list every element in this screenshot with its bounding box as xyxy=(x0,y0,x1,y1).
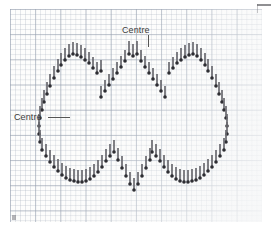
stitch-mark xyxy=(214,74,218,88)
stitch-mark xyxy=(159,80,163,93)
stitch-mark xyxy=(56,59,60,73)
stitch-mark xyxy=(158,149,162,163)
stitch-mark xyxy=(190,169,194,183)
stitch-mark xyxy=(48,74,52,88)
stitch-mark xyxy=(206,159,210,173)
stitch-mark xyxy=(115,62,119,75)
stitch-mark xyxy=(111,68,115,81)
stitch-mark xyxy=(210,66,214,80)
stitch-mark xyxy=(99,60,103,73)
stitch-mark xyxy=(166,160,170,174)
stitch-mark xyxy=(48,150,52,164)
stitch-mark xyxy=(87,52,91,65)
stitch-mark xyxy=(182,170,186,184)
stitch-mark xyxy=(163,86,167,99)
stitch-mark xyxy=(195,44,199,58)
stitch-mark xyxy=(92,164,96,178)
stitch-mark xyxy=(80,170,84,184)
stitch-mark xyxy=(116,148,120,162)
stitch-mark xyxy=(218,144,222,158)
stitch-mark xyxy=(59,53,63,67)
stitch-mark xyxy=(178,169,182,183)
stitch-mark xyxy=(52,155,56,169)
centre-top-leader-line xyxy=(148,35,149,47)
stitch-mark xyxy=(171,57,175,70)
stitch-mark xyxy=(128,172,132,186)
stitch-mark xyxy=(144,156,148,170)
stitch-mark xyxy=(217,82,221,96)
stitch-mark xyxy=(104,149,108,163)
stitch-mark xyxy=(76,170,80,184)
stitch-mark xyxy=(75,43,79,57)
stitch-mark xyxy=(179,48,183,62)
centre-top-label: Centre xyxy=(122,25,150,35)
stitch-mark xyxy=(127,41,131,56)
stitch-mark xyxy=(120,156,124,170)
stitch-mark xyxy=(68,168,72,182)
stitch-mark xyxy=(136,172,140,186)
stitch-mark xyxy=(83,48,87,62)
stitch-mark xyxy=(71,42,75,56)
stitch-mark xyxy=(198,166,202,180)
stitch-mark xyxy=(124,164,128,178)
stitch-mark xyxy=(45,82,49,96)
stitch-mark xyxy=(203,53,207,67)
stitch-mark xyxy=(112,140,116,154)
stitch-mark xyxy=(140,164,144,178)
stitch-mark xyxy=(194,168,198,182)
stitch-mark xyxy=(52,66,56,80)
stitch-mark xyxy=(167,62,171,75)
stitch-mark xyxy=(103,80,107,93)
stitch-mark xyxy=(95,62,99,75)
stitch-mark xyxy=(155,74,159,87)
stitch-mark xyxy=(67,44,71,58)
stitch-mark xyxy=(72,169,76,183)
scan-artifact-icon xyxy=(257,4,271,13)
stitch-mark xyxy=(44,144,48,158)
stitch-mark xyxy=(84,169,88,183)
stitch-mark xyxy=(108,144,112,158)
stitch-mark xyxy=(191,42,195,56)
stitch-mark xyxy=(174,167,178,181)
stitch-mark xyxy=(147,62,151,75)
stitch-mark xyxy=(175,52,179,65)
stitch-mark xyxy=(210,155,214,169)
chart-page: Centre Centre xyxy=(0,0,273,232)
stitch-mark xyxy=(119,56,123,69)
stitch-mark xyxy=(183,45,187,59)
stitch-mark xyxy=(162,155,166,169)
stitch-mark xyxy=(100,155,104,169)
stitch-mark xyxy=(79,45,83,59)
stitch-mark xyxy=(99,86,103,99)
stitch-mark xyxy=(107,74,111,87)
stitch-mark xyxy=(131,44,135,58)
stitch-mark xyxy=(139,50,143,63)
stitch-mark xyxy=(199,48,203,62)
stitch-mark xyxy=(96,160,100,174)
stitch-mark xyxy=(91,57,95,70)
stitch-mark xyxy=(186,170,190,184)
stitch-mark xyxy=(88,167,92,181)
stitch-mark xyxy=(123,50,127,63)
stitch-mark xyxy=(151,68,155,81)
stitch-mark xyxy=(60,163,64,177)
centre-left-label: Centre xyxy=(14,112,42,122)
stitch-mark xyxy=(63,48,67,62)
stitch-mark xyxy=(143,56,147,69)
stitch-mark xyxy=(154,144,158,158)
stitch-mark xyxy=(206,59,210,73)
stitch-mark xyxy=(64,166,68,180)
stitch-mark xyxy=(56,159,60,173)
stitch-mark xyxy=(170,164,174,178)
scan-speck-icon xyxy=(12,215,16,220)
stitch-mark xyxy=(214,150,218,164)
stitch-mark xyxy=(132,178,136,192)
stitch-mark xyxy=(202,163,206,177)
stitch-mark xyxy=(135,41,139,56)
centre-left-leader-line xyxy=(48,117,70,118)
stitch-mark xyxy=(187,43,191,57)
